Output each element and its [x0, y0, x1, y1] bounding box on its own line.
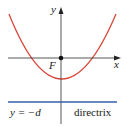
- y-axis-label: y: [51, 4, 56, 15]
- directrix-equation: y = −d: [10, 107, 41, 118]
- focus-point: [59, 56, 64, 61]
- focus-label: F: [49, 60, 56, 71]
- directrix-label: directrix: [74, 107, 111, 118]
- y-axis-arrow-icon: [59, 7, 64, 14]
- parabola-curve: [9, 14, 116, 79]
- x-axis-label: x: [114, 59, 119, 70]
